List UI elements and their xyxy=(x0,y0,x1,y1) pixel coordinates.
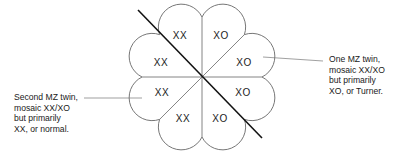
sector-label-left-upper: XX xyxy=(154,57,168,68)
cleavage-line xyxy=(138,10,262,138)
sector-label-top-right: XO xyxy=(213,30,228,41)
sector-label-bottom-right: XO xyxy=(212,113,227,124)
sector-label-left-lower: XX xyxy=(155,87,169,98)
sector-label-right-upper: XO xyxy=(236,57,251,68)
sector-label-right-lower: XO xyxy=(235,87,250,98)
left-callout-line: but primarily xyxy=(14,113,78,124)
right-leader-line xyxy=(263,57,323,61)
left-callout-line: Second MZ twin, xyxy=(14,92,78,103)
right-callout: One MZ twin, mosaic XX/XO but primarily … xyxy=(329,54,385,96)
left-callout-line: mosaic XX/XO xyxy=(14,103,78,114)
right-callout-line: One MZ twin, xyxy=(329,54,385,65)
right-callout-line: but primarily xyxy=(329,75,385,86)
sector-label-top-left: XX xyxy=(173,30,187,41)
right-callout-line: mosaic XX/XO xyxy=(329,65,385,76)
left-callout-line: XX, or normal. xyxy=(14,124,78,135)
right-callout-line: XO, or Turner. xyxy=(329,86,385,97)
sector-label-bottom-left: XX xyxy=(176,113,190,124)
left-callout: Second MZ twin, mosaic XX/XO but primari… xyxy=(14,92,78,134)
